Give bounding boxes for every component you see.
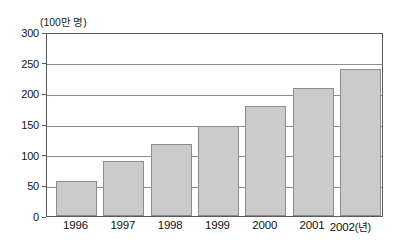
bar-1996 (56, 181, 97, 216)
x-tick-label-1998: 1998 (158, 219, 183, 231)
bar-1998 (151, 144, 192, 216)
x-tick-label-1999: 1999 (205, 219, 230, 231)
bar-2001 (293, 88, 334, 216)
x-tick-label-2000: 2000 (252, 219, 277, 231)
bar-chart-figure: (100만 명) 050100150200250300 199619971998… (0, 0, 409, 250)
gridline (47, 64, 382, 65)
y-axis: 050100150200250300 (0, 0, 46, 250)
bar-2002 (340, 69, 381, 216)
x-tick-label-1997: 1997 (110, 219, 135, 231)
y-tick-label: 100 (21, 150, 39, 162)
x-tick-label-1996: 1996 (63, 219, 88, 231)
y-axis-unit-label: (100만 명) (40, 14, 87, 29)
y-tick-label: 150 (21, 119, 39, 131)
y-tick-label: 250 (21, 58, 39, 70)
x-axis-unit-label: (년) (355, 221, 371, 233)
x-tick-label-2002: 2002(년) (330, 219, 371, 234)
bar-1999 (198, 126, 239, 216)
x-axis: 1996199719981999200020012002(년) (0, 219, 409, 245)
y-tick-label: 50 (27, 180, 39, 192)
x-tick-label-2001: 2001 (300, 219, 325, 231)
y-tick-label: 300 (21, 27, 39, 39)
plot-area (46, 33, 383, 217)
bar-1997 (103, 161, 144, 216)
y-tick-label: 200 (21, 88, 39, 100)
bar-2000 (245, 106, 286, 216)
